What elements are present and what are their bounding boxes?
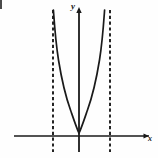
y-axis-label: y — [71, 2, 75, 11]
y-axis-arrowhead — [76, 7, 81, 13]
plot-canvas — [0, 0, 158, 158]
graph-figure: y x — [0, 0, 158, 158]
x-axis-label: x — [148, 135, 152, 143]
